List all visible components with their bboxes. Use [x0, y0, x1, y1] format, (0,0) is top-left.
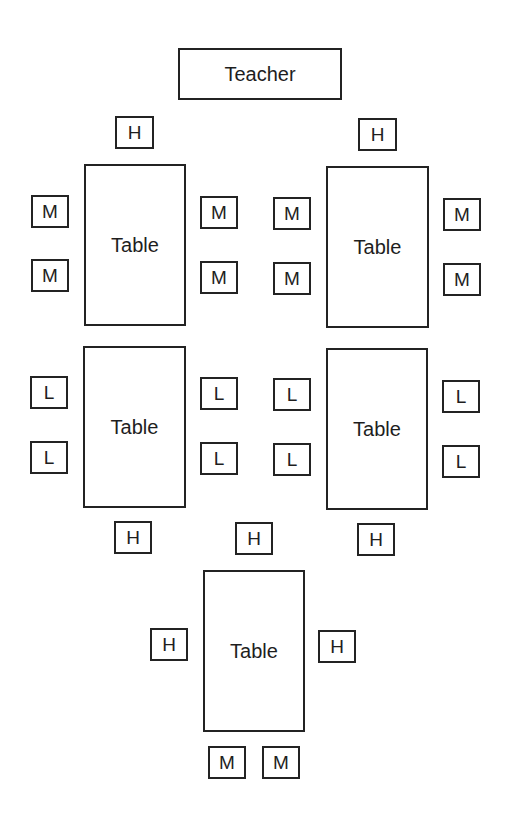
seat-t5-left: H — [150, 628, 188, 661]
table-label: Table — [354, 236, 402, 259]
seat-t1-top: H — [115, 116, 154, 149]
seat-t1-right-2: M — [200, 261, 238, 294]
seat-t2-left-1: M — [273, 197, 311, 230]
seat-t5-top: H — [235, 522, 273, 555]
table-label: Table — [111, 416, 159, 439]
table-2: Table — [326, 166, 429, 328]
table-label: Table — [353, 418, 401, 441]
teacher-label: Teacher — [224, 63, 295, 86]
table-3: Table — [83, 346, 186, 508]
seat-t3-right-1: L — [200, 377, 238, 410]
seat-t1-right-1: M — [200, 196, 238, 229]
table-1: Table — [84, 164, 186, 326]
seat-t2-right-2: M — [443, 263, 481, 296]
table-label: Table — [230, 640, 278, 663]
seat-t1-left-2: M — [31, 259, 69, 292]
seat-t3-right-2: L — [200, 442, 238, 475]
seat-t4-left-1: L — [273, 378, 311, 411]
table-4: Table — [326, 348, 428, 510]
teacher-desk: Teacher — [178, 48, 342, 100]
seat-t2-left-2: M — [273, 262, 311, 295]
seat-t4-right-2: L — [442, 445, 480, 478]
seat-t5-bottom-1: M — [208, 746, 246, 779]
seat-t5-bottom-2: M — [262, 746, 300, 779]
seat-t2-right-1: M — [443, 198, 481, 231]
seat-t4-bottom: H — [357, 523, 395, 556]
table-label: Table — [111, 234, 159, 257]
table-5: Table — [203, 570, 305, 732]
seat-t2-top: H — [358, 118, 397, 151]
seat-t3-bottom: H — [114, 521, 152, 554]
seat-t4-left-2: L — [273, 443, 311, 476]
seat-t3-left-1: L — [30, 376, 68, 409]
seat-t5-right: H — [318, 630, 356, 663]
seat-t1-left-1: M — [31, 195, 69, 228]
seat-t3-left-2: L — [30, 441, 68, 474]
seat-t4-right-1: L — [442, 380, 480, 413]
